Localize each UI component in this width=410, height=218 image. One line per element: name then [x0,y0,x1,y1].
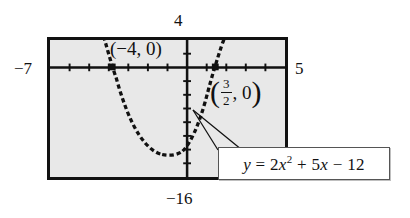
root-label-right: ( 3 2 , 0 ) [210,77,262,107]
close-paren: ) [252,79,262,105]
equation-var-1: x [279,154,287,173]
root-label-left: (−4, 0) [110,39,162,58]
root-marker-right [212,64,219,71]
y-max-label: 4 [174,12,183,29]
fraction-three-halves: 3 2 [221,77,232,107]
equation-lhs: y [243,154,251,173]
equation-coef-quadratic: 2 [270,154,279,173]
y-min-label: −16 [166,190,193,207]
open-paren: ( [210,79,220,105]
equation-minus: − [333,154,343,173]
fraction-numerator: 3 [221,77,232,91]
equation-callout-box: y = 2x2 + 5x − 12 [218,147,390,180]
parabola-vertex [162,151,182,155]
root-marker-left [109,64,116,71]
calculator-graph-figure: −7 5 4 −16 (−4, 0) ( 3 2 , 0 ) y = 2x2 +… [0,0,410,218]
equation-exponent: 2 [287,153,293,165]
fraction-denominator: 2 [221,94,232,108]
x-max-label: 5 [295,60,304,77]
equation-var-2: x [320,154,328,173]
root-label-right-rest: , 0 [233,83,252,102]
equation-text: y = 2x2 + 5x − 12 [243,153,365,175]
equation-plus: + [297,154,307,173]
x-min-label: −7 [14,60,32,77]
equation-equals: = [256,154,266,173]
equation-constant: 12 [347,154,365,173]
